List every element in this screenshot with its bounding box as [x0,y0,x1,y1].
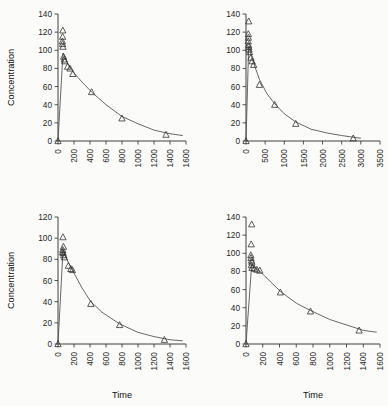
y-tick-label: 0 [47,339,52,349]
y-axis: 020406080100120140 [226,9,246,146]
y-tick-label: 100 [38,233,52,243]
y-tick-label: 80 [231,63,241,73]
x-tick-label: 600 [101,352,111,366]
y-tick-label: 20 [43,118,53,128]
x-axis: 02004006008001000120014001600 [53,344,191,370]
x-axis: 02004006008001000120014001600 [241,344,385,370]
y-axis-title: Concentration [6,49,16,106]
y-axis-title: Concentration [6,252,16,309]
fit-curve [246,47,361,141]
y-tick-label: 40 [231,303,241,313]
x-axis-title: Time [112,390,132,400]
y-tick-label: 80 [43,254,53,264]
data-point-marker [248,241,254,247]
x-tick-label: 500 [260,149,270,163]
x-tick-label: 1200 [149,352,159,371]
plot-area-top-right: 0204060801001201400500100015002000250030… [194,0,388,203]
x-tick-label: 1600 [181,149,191,168]
x-tick-label: 800 [308,352,318,366]
y-tick-label: 80 [43,63,53,73]
y-tick-label: 120 [226,27,240,37]
y-tick-label: 140 [38,9,52,19]
y-tick-label: 100 [226,248,240,258]
fit-curve [58,251,183,344]
data-point-marker [249,221,255,227]
fit-curve [58,53,183,141]
x-tick-label: 1000 [133,149,143,168]
y-tick-label: 140 [226,9,240,19]
y-tick-label: 40 [43,100,53,110]
x-tick-label: 1000 [279,149,289,168]
fit-curve [246,264,377,344]
data-markers [55,27,169,144]
plot-panel-top-right: 0204060801001201400500100015002000250030… [194,0,388,203]
x-axis: 02004006008001000120014001600 [53,141,191,167]
x-tick-label: 600 [291,352,301,366]
data-point-marker [246,18,252,24]
plot-area-top-left: 0204060801001201400200400600800100012001… [0,0,194,203]
x-tick-label: 2000 [318,149,328,168]
x-axis-title: Time [303,390,323,400]
y-tick-label: 120 [226,230,240,240]
x-tick-label: 1400 [165,149,175,168]
x-tick-label: 0 [241,352,251,357]
plot-area-bottom-right: 0204060801001201400200400600800100012001… [194,203,388,406]
y-tick-label: 60 [43,276,53,286]
data-markers [243,221,362,347]
data-point-marker [60,27,66,33]
y-tick-label: 140 [226,212,240,222]
y-tick-label: 0 [47,136,52,146]
x-tick-label: 600 [101,149,111,163]
plot-panel-top-left: 0204060801001201400200400600800100012001… [0,0,194,203]
y-tick-label: 20 [43,318,53,328]
x-tick-label: 0 [241,149,251,154]
y-tick-label: 100 [38,45,52,55]
x-tick-label: 2500 [337,149,347,168]
y-tick-label: 20 [231,118,241,128]
y-tick-label: 40 [43,297,53,307]
x-tick-label: 800 [117,149,127,163]
x-axis: 0500100015002000250030003500 [241,141,385,167]
x-tick-label: 3000 [356,149,366,168]
x-tick-label: 1200 [149,149,159,168]
x-tick-label: 3500 [375,149,385,168]
pharmacokinetic-figure: 0204060801001201400200400600800100012001… [0,0,388,406]
plot-panel-bottom-left: 0204060801001200200400600800100012001400… [0,203,194,406]
data-point-marker [60,234,66,240]
x-tick-label: 1500 [299,149,309,168]
y-axis: 020406080100120 [38,212,58,349]
y-tick-label: 20 [231,321,241,331]
data-point-marker [350,135,356,141]
plot-panel-bottom-right: 0204060801001201400200400600800100012001… [194,203,388,406]
x-tick-label: 400 [85,149,95,163]
y-axis: 020406080100120140 [226,212,246,349]
data-point-marker [119,115,125,121]
data-point-marker [277,289,283,295]
y-tick-label: 0 [235,136,240,146]
x-tick-label: 400 [275,352,285,366]
x-tick-label: 200 [69,352,79,366]
plot-area-bottom-left: 0204060801001200200400600800100012001400… [0,203,194,406]
y-axis: 020406080100120140 [38,9,58,146]
x-tick-label: 400 [85,352,95,366]
x-tick-label: 1400 [165,352,175,371]
data-point-marker [256,81,262,87]
x-tick-label: 200 [258,352,268,366]
y-tick-label: 80 [231,266,241,276]
data-markers [55,234,168,347]
y-tick-label: 60 [43,82,53,92]
y-tick-label: 120 [38,27,52,37]
y-tick-label: 120 [38,212,52,222]
x-tick-label: 800 [117,352,127,366]
x-tick-label: 1000 [133,352,143,371]
y-tick-label: 60 [231,82,241,92]
y-tick-label: 40 [231,100,241,110]
x-tick-label: 0 [53,149,63,154]
x-tick-label: 1600 [375,352,385,371]
x-tick-label: 1600 [181,352,191,371]
x-tick-label: 0 [53,352,63,357]
x-tick-label: 1000 [325,352,335,371]
x-tick-label: 200 [69,149,79,163]
y-tick-label: 60 [231,285,241,295]
x-tick-label: 1400 [358,352,368,371]
